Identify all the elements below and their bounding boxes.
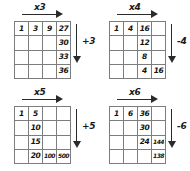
grid-cell[interactable] [124,36,138,50]
grid-cell[interactable]: 1 [15,22,29,36]
grid-cell[interactable]: 138 [152,150,166,164]
grid-cell[interactable]: 4 [124,22,138,36]
grid-cell[interactable] [29,51,43,65]
grid-cell[interactable] [152,121,166,135]
grid-cell[interactable]: 12 [138,36,152,50]
grid-cell[interactable] [29,65,43,79]
grid-cell[interactable]: 1 [15,107,29,121]
grid-cell[interactable] [152,36,166,50]
grid-cell[interactable]: 36 [57,65,71,79]
grid-cell[interactable] [15,136,29,150]
grid-cell[interactable] [15,121,29,135]
grid-cell[interactable] [43,136,57,150]
grid-cell[interactable] [124,51,138,65]
column-rule-label: +5 [82,121,95,131]
grid-cell[interactable]: 3 [29,22,43,36]
column-rule-arrow: +5 [72,109,95,153]
arrow-right-icon [151,95,158,103]
column-rule-label: -6 [177,121,186,131]
grid-cell[interactable]: 20 [29,150,43,164]
grid-cell[interactable]: 15 [29,136,43,150]
grid-cell[interactable] [110,36,124,50]
grid-cell[interactable] [43,65,57,79]
arrow-right-icon [56,95,63,103]
grid-cell[interactable] [110,51,124,65]
grid-cell[interactable] [29,36,43,50]
grid-cell[interactable] [43,107,57,121]
row-rule-arrow: x3 [22,3,68,20]
row-rule-label: x5 [34,87,45,97]
arrow-down-icon [73,141,81,148]
column-rule-arrow: -6 [167,109,190,153]
grid-cell[interactable]: 1 [110,22,124,36]
column-rule-arrow: +3 [72,24,95,68]
grid-cell[interactable]: 500 [57,150,71,164]
grid-cell[interactable]: 36 [138,107,152,121]
grid-cell[interactable] [110,65,124,79]
grid-cell[interactable] [152,107,166,121]
grid-cell[interactable]: 33 [57,51,71,65]
grid-cell[interactable]: 6 [124,107,138,121]
grid-cell[interactable] [138,150,152,164]
arrow-down-icon [168,141,176,148]
arrow-right-icon-line [117,14,153,15]
grid-cell[interactable] [57,121,71,135]
grid-cell[interactable]: 30 [138,121,152,135]
grid-cell[interactable]: 16 [152,65,166,79]
row-rule-arrow: x6 [117,88,163,105]
arrow-right-icon [56,10,63,18]
grid-cell[interactable]: 27 [57,22,71,36]
row-rule-arrow: x4 [117,3,163,20]
grid-cell[interactable] [124,150,138,164]
column-rule-arrow: -4 [167,24,190,68]
number-grid: 1 6 36 30 24 144 138 [109,106,166,164]
row-rule-arrow: x5 [22,88,68,105]
grid-cell[interactable] [110,121,124,135]
grid-cell[interactable] [152,51,166,65]
grid-cell[interactable]: 30 [57,36,71,50]
number-grid: 1 4 16 12 8 4 16 [109,21,166,79]
column-rule-label: +3 [82,36,95,46]
arrow-down-icon [168,56,176,63]
row-rule-label: x6 [129,87,140,97]
puzzle-top-right: x4 -4 1 4 16 12 8 4 16 [95,0,190,86]
arrow-right-icon-line [117,99,153,100]
grid-cell[interactable] [57,107,71,121]
arrow-right-icon-line [22,14,58,15]
grid-cell[interactable] [15,150,29,164]
row-rule-label: x4 [129,2,140,12]
grid-cell[interactable]: 24 [138,136,152,150]
arrow-down-icon-line [171,24,172,58]
grid-cell[interactable]: 16 [138,22,152,36]
grid-cell[interactable] [43,36,57,50]
grid-cell[interactable] [43,51,57,65]
number-grid: 1 3 9 27 30 33 36 [14,21,71,79]
grid-cell[interactable] [110,150,124,164]
grid-cell[interactable]: 4 [138,65,152,79]
grid-cell[interactable]: 5 [29,107,43,121]
grid-cell[interactable] [124,121,138,135]
worksheet-canvas: x3 +3 1 3 9 27 30 33 36 [0,0,190,171]
grid-cell[interactable]: 1 [110,107,124,121]
grid-cell[interactable] [15,51,29,65]
arrow-down-icon-line [76,24,77,58]
puzzle-top-left: x3 +3 1 3 9 27 30 33 36 [0,0,95,86]
grid-cell[interactable]: 144 [152,136,166,150]
grid-cell[interactable] [110,136,124,150]
arrow-right-icon [151,10,158,18]
grid-cell[interactable] [152,22,166,36]
grid-cell[interactable] [43,121,57,135]
grid-cell[interactable]: 100 [43,150,57,164]
grid-cell[interactable]: 10 [29,121,43,135]
arrow-down-icon [73,56,81,63]
grid-cell[interactable] [15,65,29,79]
grid-cell[interactable] [124,65,138,79]
grid-cell[interactable]: 8 [138,51,152,65]
number-grid: 1 5 10 15 20 100 500 [14,106,71,164]
puzzle-bottom-right: x6 -6 1 6 36 30 24 144 138 [95,85,190,171]
grid-cell[interactable] [124,136,138,150]
puzzle-bottom-left: x5 +5 1 5 10 15 20 100 500 [0,85,95,171]
grid-cell[interactable]: 9 [43,22,57,36]
grid-cell[interactable] [57,136,71,150]
grid-cell[interactable] [15,36,29,50]
